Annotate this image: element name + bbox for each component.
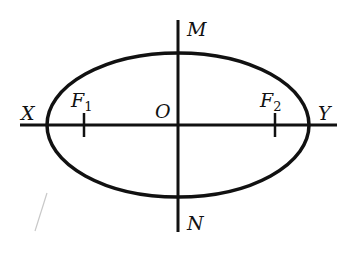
label-f2-sub: 2 [273, 99, 281, 114]
ellipse-diagram: X Y M N O F1 F2 [0, 0, 348, 254]
label-f1-sub: 1 [84, 99, 92, 114]
label-f2-main: F [259, 89, 274, 111]
label-f1-main: F [70, 89, 85, 111]
label-m: M [186, 18, 207, 40]
scan-mark [35, 193, 47, 231]
label-n: N [186, 212, 205, 234]
label-y: Y [318, 102, 333, 124]
label-o: O [155, 100, 171, 122]
label-x: X [19, 102, 36, 124]
label-f1: F1 [70, 89, 92, 114]
label-f2: F2 [259, 89, 281, 114]
